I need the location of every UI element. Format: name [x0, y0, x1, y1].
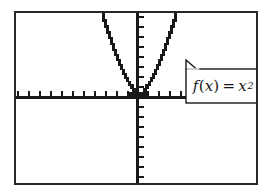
parabola-curve [102, 13, 177, 96]
plot-area: f(x)=x2 [16, 13, 256, 183]
y-axis-line [136, 13, 139, 183]
calculator-screen-frame: f(x)=x2 [14, 11, 258, 185]
graph-canvas [16, 13, 256, 183]
calculator-graph-screenshot: f(x)=x2 [0, 0, 266, 192]
